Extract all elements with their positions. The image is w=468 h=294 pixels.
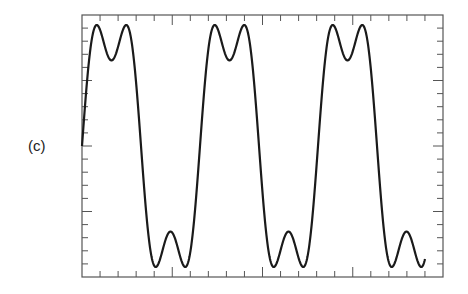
waveform-curve bbox=[82, 25, 425, 267]
plot-frame bbox=[82, 15, 443, 277]
axis-ticks bbox=[82, 15, 443, 277]
square-wave-fourier-plot bbox=[0, 0, 468, 294]
frame-rect bbox=[82, 15, 443, 277]
